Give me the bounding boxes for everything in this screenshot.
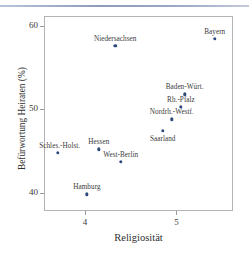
data-point-label: Hamburg [73, 183, 100, 191]
x-axis-label: Religiosität [114, 232, 162, 243]
x-axis-tick-label: 5 [168, 217, 184, 227]
y-axis-tick-label: 60 [22, 20, 38, 30]
header-rule [0, 5, 249, 7]
y-axis-tick [40, 193, 44, 194]
y-axis-label: Befürwortung Heiraten (%) [17, 67, 27, 170]
data-point-label: Baden-Würt. [166, 83, 204, 91]
data-point-label: Bayern [204, 28, 225, 36]
data-point-label: Rh.-Pfalz [167, 96, 195, 104]
data-point-label: Schles.-Holst. [39, 142, 80, 150]
data-point-label: Saarland [150, 135, 176, 143]
data-point-label: Hessen [88, 138, 109, 146]
y-axis-tick [40, 26, 44, 27]
x-axis-tick [176, 211, 177, 215]
plot-area [44, 16, 233, 211]
x-axis-tick-label: 4 [77, 217, 93, 227]
data-point-label: Niedersachsen [94, 35, 137, 43]
data-point-label: West-Berlin [103, 151, 138, 159]
y-axis-tick-label: 40 [22, 187, 38, 197]
scatter-plot-figure: 40506045Befürwortung Heiraten (%)Religio… [0, 0, 249, 256]
x-axis-tick [85, 211, 86, 215]
data-point-label: Nordrh.-Westf. [150, 108, 194, 116]
y-axis-tick [40, 109, 44, 110]
